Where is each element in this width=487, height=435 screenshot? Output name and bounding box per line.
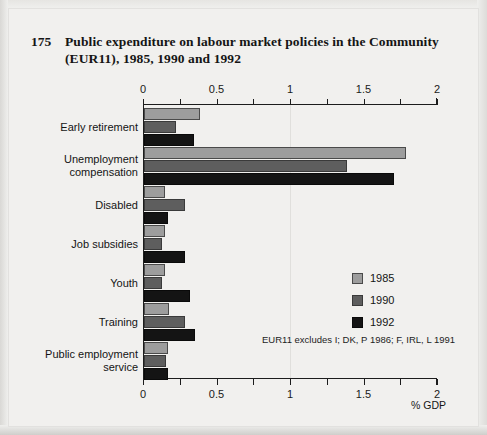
bar [144, 121, 176, 133]
x-axis-tick-bottom [217, 379, 218, 385]
bar [144, 238, 162, 250]
x-axis-tick-label-bottom: 0 [140, 388, 146, 400]
bar [144, 303, 169, 315]
bar [144, 316, 185, 328]
category-label: Public employment service [0, 348, 138, 374]
chart-legend: 198519901992 [352, 272, 394, 338]
legend-swatch-icon [352, 295, 363, 306]
x-axis-tick-top [143, 99, 144, 105]
legend-label: 1990 [370, 294, 394, 306]
x-axis-tick-top [290, 99, 291, 105]
x-axis-tick-label-top: 1 [287, 83, 293, 95]
bar [144, 173, 394, 185]
x-axis-tick-top [180, 99, 181, 105]
bar [144, 290, 190, 302]
bar [144, 212, 168, 224]
bar [144, 186, 165, 198]
figure-page: 175 Public expenditure on labour market … [0, 0, 487, 435]
bar [144, 368, 168, 380]
category-label: Training [0, 316, 138, 329]
bar [144, 225, 165, 237]
x-axis-tick-label-top: 1.5 [356, 83, 371, 95]
category-label: Youth [0, 277, 138, 290]
bar [144, 251, 185, 263]
bar [144, 355, 166, 367]
bar [144, 329, 195, 341]
legend-item: 1985 [352, 272, 394, 284]
x-axis-tick-top [400, 99, 401, 105]
chart-footnote: EUR11 excludes I; DK, P 1986; F, IRL, L … [262, 334, 455, 345]
x-axis-tick-label-bottom: 1 [287, 388, 293, 400]
bar [144, 147, 406, 159]
bar [144, 342, 168, 354]
legend-label: 1985 [370, 272, 394, 284]
x-axis-tick-bottom [400, 379, 401, 385]
legend-item: 1992 [352, 316, 394, 328]
x-axis-unit-label: % GDP [411, 399, 446, 411]
x-axis-tick-label-bottom: 0.5 [209, 388, 224, 400]
x-axis-tick-bottom [437, 379, 438, 385]
x-axis-tick-bottom [290, 379, 291, 385]
x-axis-tick-bottom [253, 379, 254, 385]
category-label: Job subsidies [0, 238, 138, 251]
bar [144, 199, 185, 211]
x-axis-tick-label-top: 0 [140, 83, 146, 95]
x-axis-tick-top [364, 99, 365, 105]
bar [144, 108, 200, 120]
x-axis-tick-top [327, 99, 328, 105]
x-axis-tick-top [437, 99, 438, 105]
bar [144, 264, 165, 276]
bar [144, 160, 347, 172]
x-axis-tick-bottom [327, 379, 328, 385]
chart-plot-area: 000.50.5111.51.522 Early retirementUnemp… [0, 0, 487, 435]
legend-swatch-icon [352, 273, 363, 284]
category-label: Unemployment compensation [0, 153, 138, 179]
category-label: Early retirement [0, 121, 138, 134]
x-axis-tick-bottom [180, 379, 181, 385]
legend-item: 1990 [352, 294, 394, 306]
x-axis-tick-label-bottom: 1.5 [356, 388, 371, 400]
x-axis-tick-bottom [364, 379, 365, 385]
category-label: Disabled [0, 199, 138, 212]
x-axis-tick-label-top: 2 [434, 83, 440, 95]
legend-swatch-icon [352, 317, 363, 328]
x-axis-tick-label-top: 0.5 [209, 83, 224, 95]
x-axis-tick-top [217, 99, 218, 105]
bar [144, 134, 194, 146]
legend-label: 1992 [370, 316, 394, 328]
x-axis-tick-top [253, 99, 254, 105]
bar [144, 277, 162, 289]
